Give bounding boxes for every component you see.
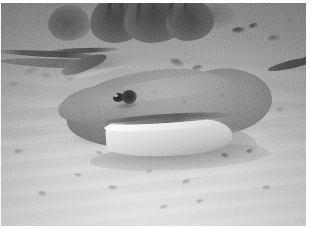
film-grain-texture: [0, 3, 306, 226]
photo-image-area: [0, 3, 306, 226]
photograph: Underwater photograph of a stingray on a…: [0, 0, 311, 228]
